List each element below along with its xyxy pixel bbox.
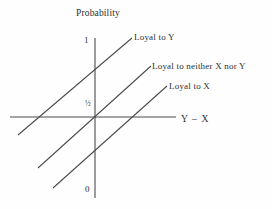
chart-title: Probability	[76, 9, 120, 19]
x-axis-label: Y – X	[181, 115, 209, 125]
series-label-loyal-to-neither: Loyal to neither X nor Y	[152, 62, 246, 71]
y-axis-tick-label-half: ½	[85, 100, 91, 108]
y-axis-tick-label-0: 0	[85, 185, 90, 194]
series-line-loyal-to-x	[53, 86, 167, 188]
series-label-loyal-to-x: Loyal to X	[169, 82, 210, 91]
y-axis-tick-label-1: 1	[84, 36, 89, 45]
probability-figure: Probability 1 ½ 0 Y – X Loyal to Y Loyal…	[0, 0, 272, 209]
series-line-loyal-to-y	[18, 38, 132, 135]
series-label-loyal-to-y: Loyal to Y	[134, 33, 175, 42]
